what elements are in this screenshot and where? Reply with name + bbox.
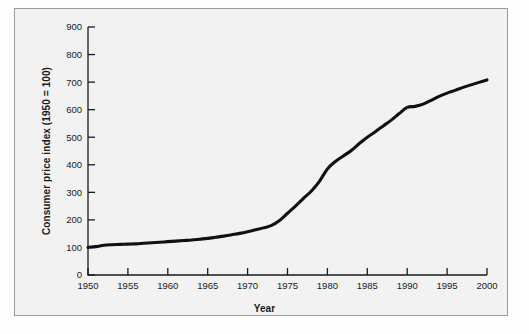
y-tick-label: 700	[66, 77, 82, 88]
y-tick-label: 100	[66, 242, 82, 253]
y-tick-label: 0	[77, 269, 82, 280]
data-line-cpi	[88, 80, 487, 248]
x-tick-label: 2000	[476, 280, 497, 291]
y-tick-label: 500	[66, 132, 82, 143]
y-axis-title: Consumer price index (1950 = 100)	[41, 67, 52, 235]
figure: 0100200300400500600700800900195019551960…	[0, 0, 529, 334]
x-tick-label: 1980	[317, 280, 338, 291]
x-tick-label: 1990	[397, 280, 418, 291]
x-tick-label: 1995	[437, 280, 458, 291]
y-tick-label: 300	[66, 187, 82, 198]
x-axis-title: Year	[0, 303, 529, 314]
x-tick-label: 1965	[197, 280, 218, 291]
x-tick-label: 1985	[357, 280, 378, 291]
y-tick-label: 200	[66, 214, 82, 225]
y-tick-label: 800	[66, 49, 82, 60]
y-tick-label: 400	[66, 159, 82, 170]
x-tick-label: 1970	[237, 280, 258, 291]
x-tick-label: 1975	[277, 280, 298, 291]
y-tick-label: 600	[66, 104, 82, 115]
x-tick-label: 1955	[117, 280, 138, 291]
x-tick-label: 1950	[77, 280, 98, 291]
x-tick-label: 1960	[157, 280, 178, 291]
chart-plot-area: 0100200300400500600700800900195019551960…	[0, 0, 529, 334]
axis-spines	[88, 27, 487, 275]
y-tick-label: 900	[66, 21, 82, 32]
